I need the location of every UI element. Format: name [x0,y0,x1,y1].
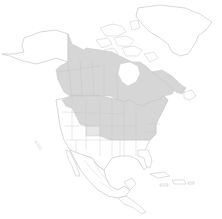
colorado-light [86,126,100,136]
range-map [0,0,222,219]
